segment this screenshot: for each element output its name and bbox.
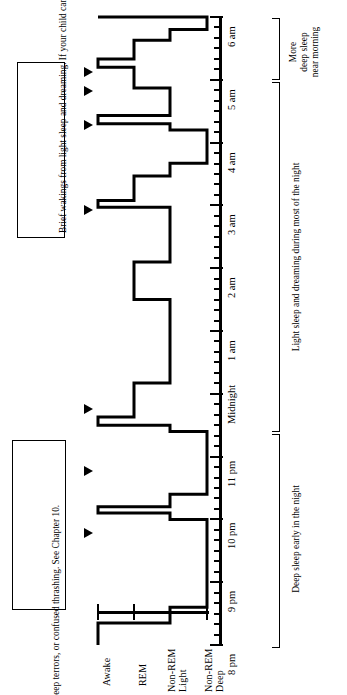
arrow-wake-1 xyxy=(84,528,93,538)
bracket-label-more-deep-sleep: More deep sleep near morning xyxy=(288,20,321,84)
arrow-wake-2 xyxy=(84,404,93,414)
bracket-label-light-sleep-most-night: Light sleep and dreaming during most of … xyxy=(291,82,302,432)
arrow-wake-5 xyxy=(84,86,93,96)
annotation-text-light-sleep-wakings: Brief wakings from light sleep and dream… xyxy=(58,65,69,233)
bracket-light-sleep-most-night xyxy=(272,82,280,432)
arrow-wake-3 xyxy=(84,205,93,215)
annotation-box-deep-sleep-wakings: Brief partial wakings from deep sleep. M… xyxy=(12,440,66,610)
arrow-wake-1b xyxy=(84,466,93,476)
arrow-wake-6 xyxy=(84,67,93,77)
arrow-wake-4 xyxy=(84,120,93,130)
bracket-more-deep-sleep xyxy=(272,18,280,80)
bracket-deep-sleep-early xyxy=(272,434,280,648)
annotation-box-light-sleep-wakings: Brief wakings from light sleep and dream… xyxy=(17,62,65,238)
bracket-label-deep-sleep-early: Deep sleep early in the night xyxy=(291,432,302,646)
